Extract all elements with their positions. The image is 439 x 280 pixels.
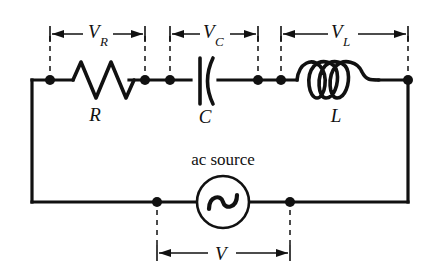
capacitor-plates-icon bbox=[200, 58, 213, 104]
vl-label-subscript: L bbox=[342, 34, 350, 49]
vl-arrow-left bbox=[283, 30, 295, 38]
resistor-body bbox=[73, 62, 134, 98]
node-left-of-resistor bbox=[45, 75, 55, 85]
capacitor-plate-right bbox=[208, 58, 214, 104]
capacitor-label: C bbox=[199, 106, 212, 127]
node-left-of-capacitor bbox=[165, 75, 175, 85]
inductor-coil-icon bbox=[297, 62, 379, 98]
node-right-of-inductor bbox=[403, 75, 413, 85]
ac-source-label: ac source bbox=[191, 150, 255, 169]
dimension-vl: V L bbox=[281, 18, 408, 49]
dimension-v-source: V bbox=[157, 238, 290, 264]
vc-arrow-right bbox=[244, 30, 256, 38]
node-right-of-capacitor bbox=[253, 75, 263, 85]
v-arrow-right bbox=[276, 249, 288, 257]
v-arrow-left bbox=[159, 249, 171, 257]
circuit-diagram-root: R C L ac source bbox=[0, 0, 439, 280]
vr-arrow-left bbox=[52, 30, 64, 38]
resistor-label: R bbox=[88, 104, 101, 125]
vc-label-subscript: C bbox=[215, 34, 224, 49]
vr-arrow-right bbox=[131, 30, 143, 38]
ac-source-sine-icon bbox=[197, 176, 249, 228]
vl-arrow-right bbox=[394, 30, 406, 38]
rlc-circuit-svg: R C L ac source bbox=[0, 0, 439, 280]
inductor-label: L bbox=[330, 105, 342, 126]
vc-arrow-left bbox=[172, 30, 184, 38]
node-right-of-source bbox=[285, 197, 295, 207]
resistor-zigzag-icon bbox=[73, 62, 134, 98]
node-left-of-source bbox=[152, 197, 162, 207]
node-right-of-resistor bbox=[140, 75, 150, 85]
dimension-vr: V R bbox=[50, 18, 145, 49]
node-left-of-inductor bbox=[276, 75, 286, 85]
vr-label-subscript: R bbox=[99, 34, 108, 49]
inductor-body bbox=[297, 62, 379, 98]
dimension-vc: V C bbox=[170, 18, 258, 49]
